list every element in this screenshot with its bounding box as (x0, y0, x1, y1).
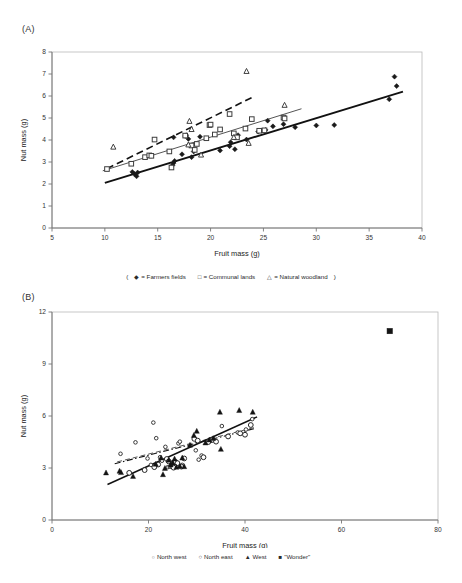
data-point (134, 441, 138, 445)
y-axis-title: Nut mass (g) (19, 119, 28, 161)
y-tick-label: 3 (42, 158, 46, 165)
data-point (282, 102, 287, 107)
legend-item-wonder: ■ "Wonder" (279, 552, 311, 560)
legend-label-natural-woodland: = Natural woodland (274, 273, 328, 280)
y-tick-label: 8 (42, 48, 46, 55)
data-point (208, 122, 213, 127)
square-open-icon: □ (198, 274, 202, 280)
data-point (192, 148, 197, 153)
y-tick-label: 12 (39, 308, 47, 315)
y-tick-label: 6 (42, 412, 46, 419)
data-point (244, 68, 249, 73)
plot-frame (52, 312, 438, 520)
data-point (213, 132, 218, 137)
data-point (314, 123, 319, 128)
legend-label-communal-lands: = Communal lands (203, 273, 255, 280)
circle-open-icon: ○ (198, 554, 202, 560)
data-point (218, 446, 223, 451)
figure-root: (A) 012345678510152025303540Fruit mass (… (0, 0, 462, 583)
data-point (152, 421, 156, 425)
panel-a-legend: ( ◆ = Farmers fields□ = Communal lands△ … (0, 272, 462, 280)
legend-label-north-west: North west (157, 553, 187, 560)
legend-label-wonder: "Wonder" (284, 553, 310, 560)
data-point (387, 97, 392, 102)
data-point (237, 408, 242, 413)
data-point (282, 116, 287, 121)
data-point (142, 468, 147, 473)
data-point (250, 417, 254, 421)
data-point (217, 409, 222, 414)
legend-item-farmers-fields: ◆ = Farmers fields (134, 272, 186, 280)
series-wonder (387, 328, 392, 333)
x-tick-label: 10 (101, 234, 109, 241)
data-point (392, 74, 397, 79)
y-tick-label: 9 (42, 360, 46, 367)
legend-label-farmers-fields: = Farmers fields (141, 273, 186, 280)
panel-b: (B) 036912020406080Fruit mass (g)Nut mas… (0, 290, 462, 583)
data-point (226, 434, 231, 439)
legend-item-west: ▲ West (245, 552, 267, 560)
x-tick-label: 15 (154, 234, 162, 241)
data-point (183, 133, 188, 138)
data-point (232, 147, 237, 152)
panel-b-plot: 036912020406080Fruit mass (g)Nut mass (g… (0, 290, 462, 548)
data-point (187, 118, 192, 123)
y-tick-label: 5 (42, 114, 46, 121)
data-point (152, 137, 157, 142)
data-point (154, 436, 158, 440)
x-axis-title: Fruit mass (g) (222, 541, 268, 548)
data-point (169, 165, 174, 170)
data-point (257, 128, 262, 133)
data-point (149, 154, 154, 159)
data-point (281, 122, 286, 127)
data-point (204, 136, 209, 141)
legend-item-north-west: ○ North west (152, 552, 187, 560)
panel-a: (A) 012345678510152025303540Fruit mass (… (0, 0, 462, 290)
data-point (160, 472, 165, 477)
data-point (227, 112, 232, 117)
legend-label-north-east: North east (204, 553, 233, 560)
data-point (244, 428, 248, 432)
series-communal-lands (105, 112, 287, 172)
data-point (178, 440, 182, 444)
x-tick-label: 40 (418, 234, 426, 241)
y-tick-label: 4 (42, 136, 46, 143)
y-tick-label: 3 (42, 464, 46, 471)
x-tick-label: 80 (434, 526, 442, 533)
data-point (243, 432, 248, 437)
y-tick-label: 0 (42, 224, 46, 231)
y-tick-label: 7 (42, 70, 46, 77)
data-point (220, 424, 224, 428)
data-point (197, 458, 201, 462)
data-point (250, 117, 255, 122)
data-point (195, 142, 200, 147)
y-tick-label: 0 (42, 516, 46, 523)
data-point (186, 142, 191, 147)
data-point (194, 428, 199, 433)
data-point (111, 144, 116, 149)
x-tick-label: 60 (338, 526, 346, 533)
x-tick-label: 30 (313, 234, 321, 241)
data-point (201, 455, 206, 460)
series-north-west (119, 417, 254, 469)
data-point (172, 456, 177, 461)
data-point (248, 423, 253, 428)
x-tick-label: 25 (260, 234, 268, 241)
x-tick-label: 0 (50, 526, 54, 533)
legend-item-communal-lands: □ = Communal lands (198, 272, 255, 280)
panel-b-legend: ○ North west○ North east▲ West■ "Wonder" (0, 552, 462, 560)
data-point (146, 457, 150, 461)
data-point (180, 152, 185, 157)
data-point (119, 452, 123, 456)
data-point (332, 123, 337, 128)
x-axis-title: Fruit mass (g) (214, 249, 260, 258)
legend-close-paren: ) (334, 273, 336, 280)
data-point (167, 149, 172, 154)
data-point (262, 128, 267, 133)
y-tick-label: 1 (42, 202, 46, 209)
x-tick-label: 35 (365, 234, 373, 241)
circle-open-small-icon: ○ (152, 554, 155, 560)
y-tick-label: 6 (42, 92, 46, 99)
square-filled-icon: ■ (279, 554, 283, 560)
data-point (243, 126, 248, 131)
